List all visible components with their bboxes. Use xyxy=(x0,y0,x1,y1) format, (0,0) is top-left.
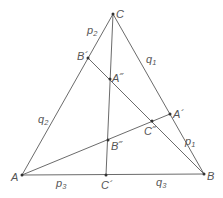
label-p1-sub: 1 xyxy=(191,140,195,149)
label-q2-sub: 2 xyxy=(43,118,49,127)
point-A1 xyxy=(169,113,172,116)
label-B1: B´ xyxy=(77,50,88,62)
label-A: A xyxy=(10,171,18,183)
point-B2 xyxy=(107,139,110,142)
label-C2: C˝ xyxy=(144,125,157,137)
point-C2 xyxy=(151,120,154,123)
point-C xyxy=(112,13,115,16)
side-AC xyxy=(22,14,113,175)
label-p2: p2 xyxy=(86,24,98,38)
cevian-BB1 xyxy=(88,58,204,174)
label-B2: B˝ xyxy=(111,140,123,152)
label-q3-sub: 3 xyxy=(162,181,167,190)
label-C: C xyxy=(116,8,124,20)
point-C1 xyxy=(105,174,108,177)
label-q3: q3 xyxy=(156,176,167,190)
label-p1-base: p xyxy=(184,135,191,147)
label-p2-base: p xyxy=(86,24,93,36)
label-p2-sub: 2 xyxy=(92,29,98,38)
side-BC xyxy=(113,14,204,174)
point-B xyxy=(203,173,206,176)
label-p3: p3 xyxy=(55,177,67,191)
label-A2: A˝ xyxy=(111,72,124,84)
label-A1: A´ xyxy=(172,108,184,120)
label-q1-sub: 1 xyxy=(152,58,156,67)
label-C1: C´ xyxy=(101,179,113,191)
label-q2: q2 xyxy=(38,113,49,127)
label-p3-base: p xyxy=(55,177,62,189)
side-AB xyxy=(22,174,204,175)
label-p3-sub: 3 xyxy=(62,182,67,191)
point-A xyxy=(21,174,24,177)
label-q1: q1 xyxy=(146,53,156,67)
label-p1: p1 xyxy=(184,135,195,149)
label-B: B xyxy=(207,170,214,182)
triangle-diagram: A B C A´ B´ C´ A˝ B˝ C˝ p1 p2 p3 q1 q2 q… xyxy=(0,0,223,198)
